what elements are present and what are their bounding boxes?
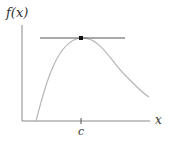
- x-axis-label: x: [155, 113, 162, 127]
- c-label: c: [78, 125, 84, 138]
- y-axis-label: f(x): [5, 5, 28, 20]
- function-curve: [36, 38, 149, 121]
- maximum-point: [79, 36, 83, 40]
- diagram-canvas: f(x) x c: [0, 0, 169, 142]
